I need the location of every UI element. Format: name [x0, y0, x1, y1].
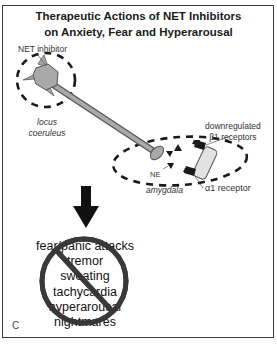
symptom-item: sweating [20, 269, 150, 284]
postsynaptic-membrane [192, 146, 218, 181]
neuron-soma [23, 55, 58, 96]
amygdala-label: amygdala [146, 185, 183, 195]
alpha1-receptor-label: α1 receptor [205, 183, 251, 193]
panel-letter: C [12, 320, 19, 331]
symptom-item: hyperarousal [20, 300, 150, 315]
downregulated-beta1-label: downregulated β1 receptors [205, 121, 261, 143]
symptom-item: fear/panic attacks [20, 239, 150, 254]
locus-coeruleus-label: locus coeruleus [25, 117, 69, 139]
down-arrow-icon [73, 186, 99, 228]
downregulated-line-1: downregulated [205, 121, 261, 132]
ne-label: NE [150, 170, 160, 179]
symptom-item: tachycardia [20, 285, 150, 300]
symptom-item: nightmares [20, 315, 150, 330]
symptom-item: tremor [20, 254, 150, 269]
locus-coeruleus-line-1: locus [25, 117, 69, 128]
locus-coeruleus-line-2: coeruleus [25, 128, 69, 139]
ne-molecules [166, 144, 182, 169]
downregulated-line-2: β1 receptors [205, 132, 261, 143]
net-inhibitor-label: NET inhibitor [18, 44, 67, 54]
symptom-list: fear/panic attacks tremor sweating tachy… [20, 239, 150, 330]
